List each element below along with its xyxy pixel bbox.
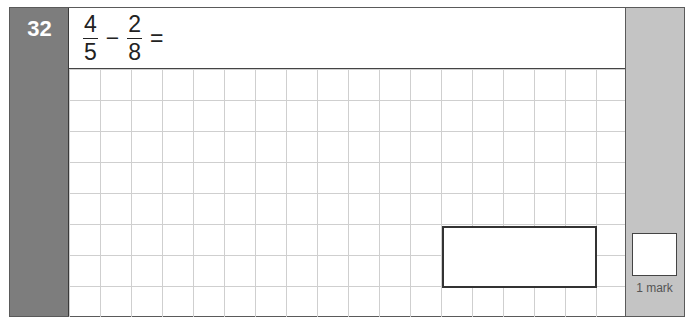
minus-operator: −	[106, 25, 119, 52]
equals-sign: =	[150, 25, 163, 52]
answer-box[interactable]	[442, 226, 597, 288]
mark-box	[632, 233, 677, 276]
fraction-1-denominator: 5	[84, 39, 97, 64]
fraction-2-denominator: 8	[128, 39, 141, 64]
fraction-expression: 4 5 − 2 8 =	[83, 10, 171, 66]
marks-panel: 1 mark	[625, 8, 684, 316]
fraction-2: 2 8	[127, 13, 142, 64]
fraction-1: 4 5	[83, 13, 98, 64]
fraction-1-numerator: 4	[83, 13, 98, 39]
mark-label: 1 mark	[626, 281, 683, 295]
question-frame: 32 4 5 − 2 8 = 1 mark	[9, 7, 685, 317]
question-number: 32	[10, 16, 69, 42]
question-header: 4 5 − 2 8 =	[69, 8, 627, 69]
question-number-panel: 32	[10, 8, 69, 316]
fraction-2-numerator: 2	[127, 13, 142, 39]
